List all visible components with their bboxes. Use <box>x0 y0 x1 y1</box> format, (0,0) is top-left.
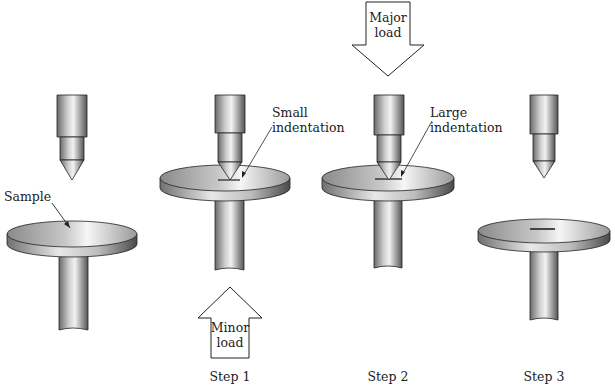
small-indentation-label-line1: Small <box>272 105 308 120</box>
step-3-label: Step 3 <box>524 369 565 384</box>
major-load-label-line2: load <box>375 25 402 40</box>
minor-load-label-line2: load <box>217 335 244 350</box>
step-1-label: Step 1 <box>210 369 251 384</box>
panel-step-2: Major load Large indentation Step 2 <box>322 2 503 384</box>
panel-step-3: Step 3 <box>478 95 610 384</box>
sample-label: Sample <box>4 189 51 204</box>
panel-initial: Sample <box>4 95 137 330</box>
large-indentation-label-line2: indentation <box>430 120 503 135</box>
panel-step-1: Small indentation Minor load Step 1 <box>160 95 345 384</box>
minor-load-label-line1: Minor <box>211 320 249 335</box>
indenter <box>530 95 558 178</box>
stem <box>59 250 88 330</box>
small-indentation-label-line2: indentation <box>272 120 345 135</box>
hardness-test-diagram: Sample Small indentation Minor l <box>0 0 615 387</box>
sample-disk <box>478 219 610 252</box>
minor-load-arrow: Minor load <box>198 287 262 358</box>
large-indentation-label-line1: Large <box>430 105 467 120</box>
indenter <box>57 95 87 180</box>
stem <box>530 246 558 320</box>
step-2-label: Step 2 <box>368 369 409 384</box>
major-load-label-line1: Major <box>369 10 407 25</box>
major-load-arrow: Major load <box>352 2 424 76</box>
sample-disk <box>7 221 137 257</box>
